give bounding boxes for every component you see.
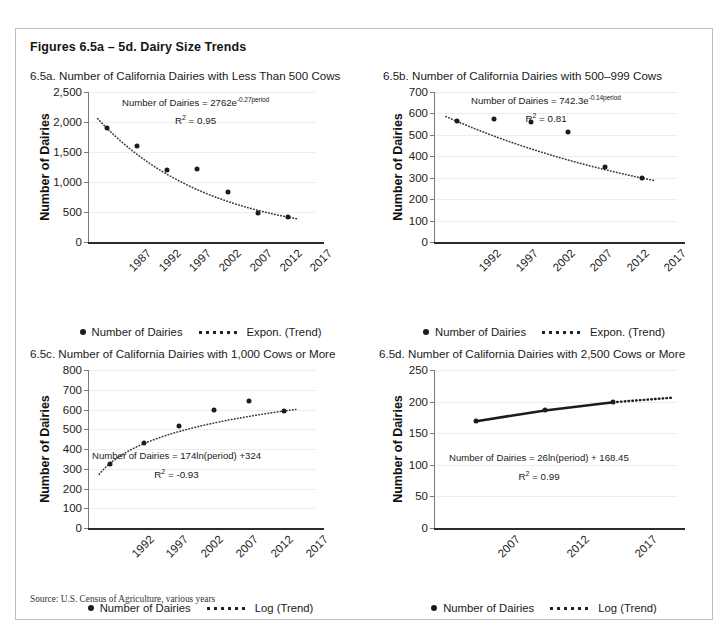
y-tick-label: 700 xyxy=(379,86,428,98)
y-tick-label: 200 xyxy=(379,193,428,205)
trend-equation: Number of Dairies = 174ln(period) +324 xyxy=(92,450,261,461)
y-tick-label: 300 xyxy=(379,172,428,184)
y-tick-mark xyxy=(84,508,88,509)
page-title: Figures 6.5a – 5d. Dairy Size Trends xyxy=(30,40,246,54)
figure-frame: Figures 6.5a – 5d. Dairy Size Trends 6.5… xyxy=(15,28,713,620)
legend-item-series[interactable]: Number of Dairies xyxy=(423,326,526,338)
y-tick-mark xyxy=(84,92,88,93)
x-tick-label: 2017 xyxy=(662,247,689,274)
data-point xyxy=(474,419,479,424)
legend-item-series[interactable]: Number of Dairies xyxy=(431,602,534,614)
y-tick-mark xyxy=(84,390,88,391)
y-tick-label: 100 xyxy=(379,215,428,227)
legend-label-trend: Log (Trend) xyxy=(598,602,657,614)
y-tick-mark xyxy=(84,370,88,371)
y-tick-label: 500 xyxy=(379,129,428,141)
y-tick-label: 200 xyxy=(379,396,428,408)
x-tick-label: 2017 xyxy=(307,247,334,274)
legend-dot-icon xyxy=(88,605,94,611)
y-tick-label: 2,500 xyxy=(26,86,82,98)
legend-item-trend[interactable]: Log (Trend) xyxy=(548,602,657,614)
y-tick-mark xyxy=(430,433,434,434)
y-tick-mark xyxy=(430,242,434,243)
legend-label-trend: Expon. (Trend) xyxy=(247,326,322,338)
x-tick-label: 2012 xyxy=(564,533,591,560)
legend-dotted-line-icon xyxy=(548,607,592,610)
legend-dotted-line-icon xyxy=(197,331,241,334)
legend-item-series[interactable]: Number of Dairies xyxy=(80,326,183,338)
data-point xyxy=(285,215,290,220)
y-tick-label: 0 xyxy=(379,236,428,248)
data-point xyxy=(566,130,571,135)
y-tick-mark xyxy=(430,465,434,466)
trend-equation: Number of Dairies = 2762e-0.27period xyxy=(122,96,269,108)
x-tick-label: 1997 xyxy=(164,533,191,560)
y-tick-mark xyxy=(430,156,434,157)
y-tick-label: 400 xyxy=(379,150,428,162)
x-tick-label: 2007 xyxy=(496,533,523,560)
x-tick-label: 2012 xyxy=(277,247,304,274)
x-tick-label: 2002 xyxy=(199,533,226,560)
y-tick-mark xyxy=(84,212,88,213)
trendline xyxy=(88,370,316,528)
chart-legend: Number of DairiesLog (Trend) xyxy=(379,602,709,614)
chart-panel-6-5c: 6.5c. Number of California Dairies with … xyxy=(26,347,375,609)
y-tick-mark xyxy=(430,113,434,114)
x-tick-label: 1992 xyxy=(156,247,183,274)
y-tick-mark xyxy=(84,489,88,490)
chart-title-6-5a: 6.5a. Number of California Dairies with … xyxy=(30,69,375,82)
y-tick-mark xyxy=(84,182,88,183)
data-point xyxy=(455,119,460,124)
x-tick-label: 2007 xyxy=(588,247,615,274)
r-squared-label: R2 = 0.99 xyxy=(449,470,629,482)
y-tick-mark xyxy=(84,429,88,430)
data-point xyxy=(177,423,182,428)
legend-item-trend[interactable]: Expon. (Trend) xyxy=(197,326,322,338)
x-tick-label: 2012 xyxy=(268,533,295,560)
chart-panel-6-5d: 6.5d. Number of California Dairies with … xyxy=(379,347,709,609)
y-tick-label: 700 xyxy=(26,384,82,396)
data-point xyxy=(611,400,616,405)
legend-label-trend: Expon. (Trend) xyxy=(590,326,665,338)
data-point xyxy=(142,441,147,446)
data-point xyxy=(542,408,547,413)
y-tick-mark xyxy=(84,122,88,123)
y-tick-label: 400 xyxy=(26,443,82,455)
legend-label-trend: Log (Trend) xyxy=(255,602,314,614)
y-tick-label: 100 xyxy=(379,459,428,471)
y-tick-mark xyxy=(430,92,434,93)
y-tick-label: 1,500 xyxy=(26,146,82,158)
x-tick-label: 1992 xyxy=(129,533,156,560)
x-tick-label: 2007 xyxy=(247,247,274,274)
data-point xyxy=(255,210,260,215)
y-tick-mark xyxy=(84,242,88,243)
y-tick-label: 300 xyxy=(26,463,82,475)
plot-area xyxy=(88,370,316,528)
y-tick-label: 100 xyxy=(26,502,82,514)
legend-dotted-line-icon xyxy=(205,607,249,610)
y-tick-mark xyxy=(430,370,434,371)
data-point xyxy=(603,164,608,169)
chart-legend: Number of DairiesExpon. (Trend) xyxy=(379,326,709,338)
x-tick-label: 1997 xyxy=(187,247,214,274)
y-tick-mark xyxy=(84,528,88,529)
chart-legend: Number of DairiesExpon. (Trend) xyxy=(26,326,375,338)
data-point xyxy=(107,461,112,466)
y-tick-label: 50 xyxy=(379,490,428,502)
legend-label-series: Number of Dairies xyxy=(435,326,526,338)
y-tick-label: 2,000 xyxy=(26,116,82,128)
chart-title-6-5d: 6.5d. Number of California Dairies with … xyxy=(379,347,709,360)
legend-dot-icon xyxy=(423,329,429,335)
legend-item-trend[interactable]: Log (Trend) xyxy=(205,602,314,614)
y-tick-mark xyxy=(84,469,88,470)
x-tick-label: 2017 xyxy=(633,533,660,560)
legend-item-trend[interactable]: Expon. (Trend) xyxy=(540,326,665,338)
x-tick-label: 2007 xyxy=(233,533,260,560)
y-tick-mark xyxy=(430,528,434,529)
y-tick-label: 0 xyxy=(379,522,428,534)
data-point xyxy=(212,408,217,413)
data-point xyxy=(281,409,286,414)
y-tick-mark xyxy=(430,199,434,200)
chart-panel-6-5b: 6.5b. Number of California Dairies with … xyxy=(379,69,709,339)
data-point xyxy=(104,126,109,131)
